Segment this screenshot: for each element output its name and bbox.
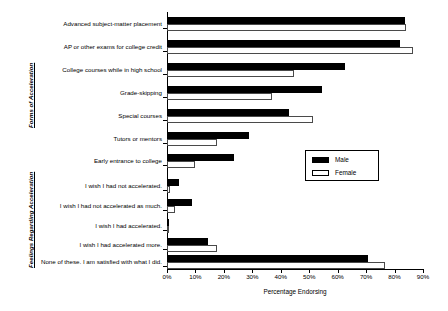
x-tick-label: 70% <box>351 273 381 280</box>
bar-female <box>167 186 170 193</box>
category-label: I wish I had accelerated more. <box>30 241 162 248</box>
bar-male <box>167 63 345 70</box>
y-axis-tick <box>163 249 167 250</box>
category-label: Tutors or mentors <box>30 135 162 142</box>
bar-male <box>167 154 234 161</box>
horizontal-bar-chart: Forms of Acceleration Feelings Regarding… <box>0 0 448 311</box>
y-axis-tick <box>163 230 167 231</box>
y-axis-tick <box>163 120 167 121</box>
x-tick-label: 90% <box>408 273 438 280</box>
category-label: AP or other exams for college credit <box>30 43 162 50</box>
bar-male <box>167 109 289 116</box>
y-axis-tick <box>163 143 167 144</box>
x-tick-label: 10% <box>180 273 210 280</box>
y-axis-tick <box>163 266 167 267</box>
category-label: Advanced subject-matter placement <box>30 20 162 27</box>
x-tick-label: 50% <box>294 273 324 280</box>
category-label: I wish I had accelerated. <box>30 222 162 229</box>
bar-male <box>167 219 169 226</box>
y-axis-tick <box>163 210 167 211</box>
bar-female <box>167 93 272 100</box>
bar-male <box>167 199 192 206</box>
category-label: College courses while in high school <box>30 66 162 73</box>
category-label: Special courses <box>30 112 162 119</box>
x-tick-label: 20% <box>209 273 239 280</box>
x-axis-line <box>167 269 423 270</box>
female-swatch-icon <box>312 170 329 176</box>
bar-male <box>167 255 368 262</box>
bar-female <box>167 47 413 54</box>
x-tick-label: 30% <box>237 273 267 280</box>
legend-label-male: Male <box>335 156 349 164</box>
bar-female <box>167 24 406 31</box>
x-tick-label: 80% <box>380 273 410 280</box>
bar-female <box>167 206 175 213</box>
y-axis-tick <box>163 97 167 98</box>
bar-female <box>167 226 169 233</box>
bar-female <box>167 116 313 123</box>
bar-female <box>167 70 294 77</box>
y-axis-tick <box>163 165 167 166</box>
bar-female <box>167 262 385 269</box>
bar-female <box>167 139 217 146</box>
male-swatch-icon <box>312 157 329 163</box>
category-label: Early entrance to college <box>30 157 162 164</box>
bar-female <box>167 161 195 168</box>
bar-male <box>167 179 179 186</box>
bar-female <box>167 245 217 252</box>
category-label: I wish I had not accelerated. <box>30 182 162 189</box>
bar-male <box>167 40 400 47</box>
legend: Male Female <box>305 150 379 181</box>
category-label: I wish I had not accelerated as much. <box>30 202 162 209</box>
category-label: Grade-skipping <box>30 89 162 96</box>
y-axis-tick <box>163 74 167 75</box>
bar-male <box>167 132 249 139</box>
y-axis-tick <box>163 190 167 191</box>
bar-male <box>167 17 405 24</box>
x-axis-title: Percentage Endorsing <box>167 288 423 295</box>
y-axis-tick <box>163 28 167 29</box>
x-tick-label: 0% <box>152 273 182 280</box>
x-tick-label: 60% <box>323 273 353 280</box>
legend-label-female: Female <box>335 169 356 177</box>
category-label: None of these. I am satisfied with what … <box>30 258 162 265</box>
y-axis-tick <box>163 51 167 52</box>
x-tick-label: 40% <box>266 273 296 280</box>
bar-male <box>167 86 322 93</box>
bar-male <box>167 238 208 245</box>
